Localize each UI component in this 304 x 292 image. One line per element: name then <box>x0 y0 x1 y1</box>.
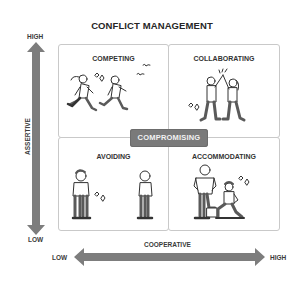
quadrant-accommodating: ACCOMMODATING <box>168 137 280 231</box>
quadrant-avoiding: AVOIDING <box>58 137 169 231</box>
diagram-title: CONFLICT MANAGEMENT <box>0 20 304 31</box>
horizontal-axis-low-label: LOW <box>52 254 67 261</box>
two-people-high-five-icon <box>169 45 281 139</box>
horizontal-axis-high-label: HIGH <box>270 254 286 261</box>
vertical-axis-name: ASSERTIVE <box>24 112 31 162</box>
horizontal-double-arrow-icon <box>74 248 265 266</box>
vertical-axis-low-label: LOW <box>28 236 43 243</box>
two-people-racing-icon <box>59 45 170 139</box>
two-people-turned-away-icon <box>59 138 170 232</box>
compromising-badge: COMPROMISING <box>130 129 208 147</box>
person-helping-kneeling-person-icon <box>169 138 281 232</box>
quadrant-competing: COMPETING <box>58 44 169 138</box>
horizontal-axis-name: COOPERATIVE <box>144 241 191 248</box>
vertical-axis-high-label: HIGH <box>27 33 43 40</box>
quadrant-collaborating: COLLABORATING <box>168 44 280 138</box>
